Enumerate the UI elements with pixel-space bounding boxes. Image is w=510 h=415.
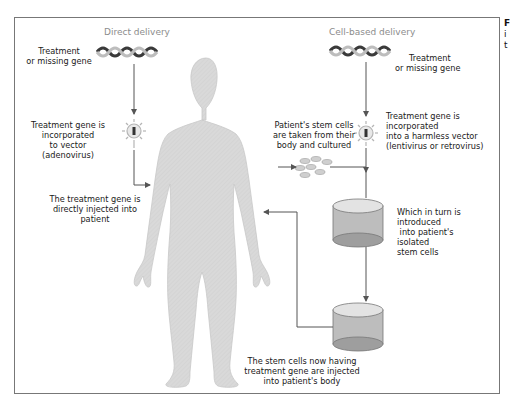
label-direct-inject: The treatment gene is directly injected … — [40, 194, 150, 224]
label-line: Treatment gene is — [386, 111, 483, 121]
label-direct-vector: Treatment gene is incorporated to vector… — [22, 120, 114, 160]
label-line: (adenovirus) — [22, 150, 114, 160]
label-line: into a harmless vector — [386, 131, 483, 141]
cutoff-figure-caption: F i t — [504, 18, 510, 51]
label-line: into patient's body — [232, 376, 372, 386]
label-line: stem cells — [397, 247, 461, 257]
petri-dish-icon-1 — [333, 199, 383, 247]
label-line: isolated — [397, 237, 461, 247]
label-direct-gene: Treatment or missing gene — [22, 46, 96, 66]
line-stem-cells-to-dish — [330, 167, 366, 198]
label-line: body and cultured — [266, 140, 362, 150]
label-line: or missing gene — [395, 63, 460, 73]
label-line: Treatment gene is — [22, 120, 114, 130]
label-line: Patient's stem cells — [266, 120, 362, 130]
label-line: Treatment — [395, 53, 460, 63]
stem-cells-icon — [295, 157, 332, 178]
human-body-icon — [134, 58, 270, 387]
label-cell-gene: Treatment or missing gene — [395, 53, 460, 73]
label-stem-cells: Patient's stem cells are taken from thei… — [266, 120, 362, 150]
label-line: treatment gene are injected — [232, 366, 372, 376]
label-line: Which in turn is — [397, 207, 461, 217]
label-line: are taken from their — [266, 130, 362, 140]
section-title-cell-based: Cell-based delivery — [329, 27, 415, 37]
label-line: The treatment gene is — [40, 194, 150, 204]
label-line: to vector — [22, 140, 114, 150]
dna-icon-direct — [97, 48, 157, 56]
label-dish-introduced: Which in turn is introduced into patient… — [397, 207, 461, 257]
label-line: introduced — [397, 217, 461, 227]
section-title-direct: Direct delivery — [104, 27, 170, 37]
caption-line: F — [504, 18, 510, 28]
label-line: incorporated — [22, 130, 114, 140]
caption-line: t — [504, 40, 510, 51]
label-line: or missing gene — [22, 56, 96, 66]
dna-icon-cell — [330, 47, 390, 55]
label-line: (lentivirus or retrovirus) — [386, 141, 483, 151]
label-line: Treatment — [22, 46, 96, 56]
label-cell-vector: Treatment gene is incorporated into a ha… — [386, 111, 483, 151]
label-final-injection: The stem cells now having treatment gene… — [232, 356, 372, 386]
label-line: incorporated — [386, 121, 483, 131]
label-line: The stem cells now having — [232, 356, 372, 366]
virus-icon-direct — [122, 119, 146, 148]
arrow-vector-to-body — [134, 150, 150, 185]
label-line: patient — [40, 214, 150, 224]
label-line: into patient's — [397, 227, 461, 237]
label-line: directly injected into — [40, 204, 150, 214]
caption-line: i — [504, 29, 510, 40]
arrow-dish-to-body — [264, 212, 333, 327]
petri-dish-icon-2 — [333, 303, 383, 351]
